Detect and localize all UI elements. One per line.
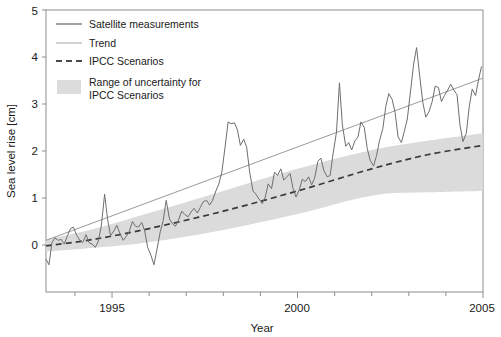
xtick-label-1995: 1995	[99, 302, 125, 314]
legend-label-satellite: Satellite measurements	[89, 18, 199, 30]
legend-label-trend: Trend	[89, 37, 116, 49]
legend-swatch-uncertainty-patch	[57, 80, 81, 94]
legend-label-uncertainty-line2: IPCC Scenarios	[89, 89, 164, 101]
ytick-label-0: 0	[32, 239, 38, 251]
sea-level-rise-chart: 5 4 3 2 1 0 1995 2000 2005 Year Sea leve…	[0, 0, 501, 337]
ytick-label-1: 1	[32, 192, 38, 204]
ytick-label-5: 5	[32, 5, 38, 17]
xtick-label-2000: 2000	[284, 302, 310, 314]
legend-label-ipcc-scenarios: IPCC Scenarios	[89, 55, 164, 67]
y-axis-title: Sea level rise [cm]	[5, 104, 17, 198]
chart-canvas: 5 4 3 2 1 0 1995 2000 2005 Year Sea leve…	[0, 0, 501, 337]
xtick-label-2005: 2005	[469, 302, 495, 314]
x-axis-title: Year	[250, 322, 273, 334]
ytick-label-2: 2	[32, 145, 38, 157]
ytick-label-3: 3	[32, 98, 38, 110]
ytick-label-4: 4	[32, 51, 39, 63]
legend-label-uncertainty-line1: Range of uncertainty for	[89, 76, 202, 88]
